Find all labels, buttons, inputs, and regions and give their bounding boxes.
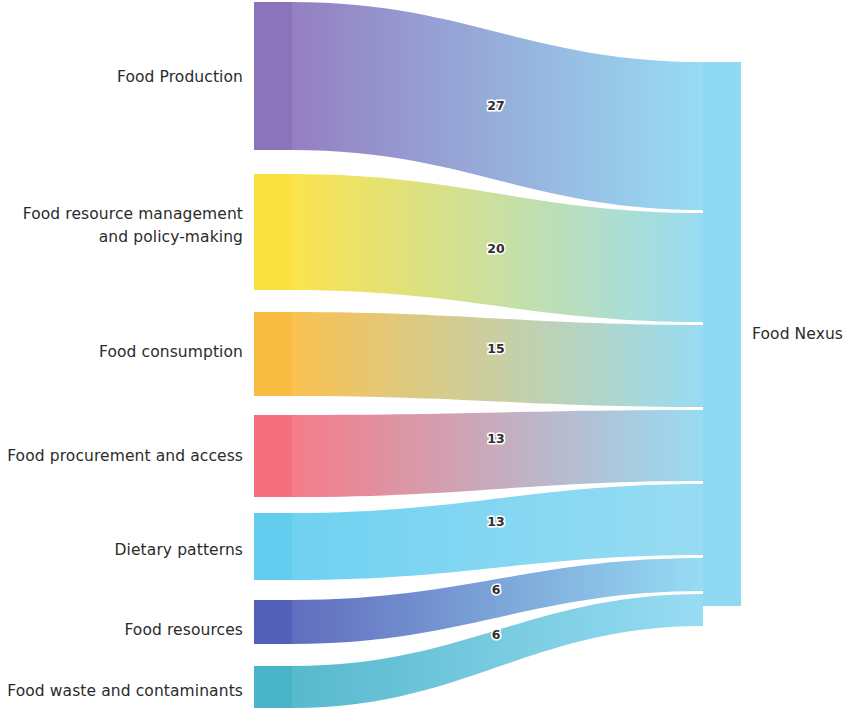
link-value-food-resources: 6 — [492, 582, 501, 597]
sankey-node-food-production[interactable] — [254, 2, 292, 150]
node-label-line: Food resource management — [23, 205, 243, 223]
link-value-food-resource-mgmt: 20 — [487, 241, 505, 256]
sankey-node-food-resources[interactable] — [254, 600, 292, 644]
sankey-link-food-procurement[interactable] — [292, 410, 703, 497]
node-label-line: Food Production — [117, 68, 243, 86]
node-label-food-resources: Food resources — [124, 621, 243, 639]
sankey-node-food-waste[interactable] — [254, 666, 292, 708]
link-value-dietary-patterns: 13 — [487, 514, 504, 529]
node-label-line: Dietary patterns — [115, 541, 243, 559]
sankey-canvas: Food ProductionFood resource managementa… — [0, 0, 846, 708]
sankey-node-food-nexus[interactable] — [703, 62, 741, 606]
link-value-food-consumption: 15 — [487, 341, 504, 356]
node-label-food-production: Food Production — [117, 68, 243, 86]
node-label-food-resource-mgmt: Food resource managementand policy-makin… — [23, 205, 243, 246]
sankey-node-food-procurement[interactable] — [254, 415, 292, 497]
node-label-line: Food procurement and access — [7, 447, 243, 465]
node-label-food-procurement: Food procurement and access — [7, 447, 243, 465]
link-value-food-production: 27 — [487, 98, 504, 113]
node-label-dietary-patterns: Dietary patterns — [115, 541, 243, 559]
sankey-diagram: Food ProductionFood resource managementa… — [0, 0, 846, 708]
node-label-line: and policy-making — [99, 228, 243, 246]
node-label-food-waste: Food waste and contaminants — [7, 682, 243, 700]
link-value-food-procurement: 13 — [487, 431, 504, 446]
node-label-line: Food waste and contaminants — [7, 682, 243, 700]
sankey-link-food-consumption[interactable] — [292, 312, 703, 407]
link-value-food-waste: 6 — [492, 627, 501, 642]
sankey-node-dietary-patterns[interactable] — [254, 513, 292, 580]
node-label-line: Food resources — [124, 621, 243, 639]
sankey-node-food-resource-mgmt[interactable] — [254, 174, 292, 290]
node-label-food-nexus: Food Nexus — [752, 325, 843, 343]
node-label-line: Food consumption — [99, 343, 243, 361]
sankey-node-food-consumption[interactable] — [254, 312, 292, 396]
node-label-food-consumption: Food consumption — [99, 343, 243, 361]
node-label-line: Food Nexus — [752, 325, 843, 343]
